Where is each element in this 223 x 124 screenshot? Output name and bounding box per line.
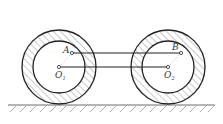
pin-B	[179, 51, 182, 54]
label-B: B	[171, 42, 179, 52]
pin-O1	[57, 65, 60, 68]
diagram-canvas: A B O1 O2	[0, 0, 223, 124]
pin-O2	[166, 65, 169, 68]
label-A: A	[62, 45, 70, 55]
pin-A	[70, 51, 73, 54]
